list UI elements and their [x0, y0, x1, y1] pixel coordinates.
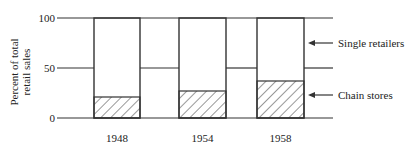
y-tick-label: 0: [50, 112, 56, 124]
arrowhead-icon: [308, 92, 315, 98]
stacked-bar-chart: 194819541958100500Single retailersChain …: [0, 0, 414, 153]
x-tick-label: 1948: [106, 132, 129, 144]
x-tick-label: 1954: [192, 132, 215, 144]
legend-label: Single retailers: [338, 37, 404, 49]
y-tick-label: 100: [39, 12, 56, 24]
chain-stores-bar: [257, 81, 304, 118]
arrowhead-icon: [308, 40, 315, 46]
legend-label: Chain stores: [338, 89, 393, 101]
y-tick-label: 50: [44, 62, 56, 74]
chain-stores-bar: [179, 91, 226, 118]
bars: [94, 18, 315, 118]
chain-stores-bar: [94, 97, 140, 118]
x-tick-label: 1958: [270, 132, 293, 144]
